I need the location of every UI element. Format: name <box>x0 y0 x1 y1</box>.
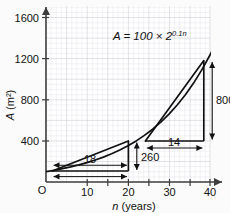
x-tick-label-20: 20 <box>122 186 134 198</box>
y-tick-label-1600: 1600 <box>15 12 39 24</box>
x-tick-label-40: 40 <box>204 186 216 198</box>
rise-800-label: 800 <box>216 94 230 106</box>
run-18-label: 18 <box>84 153 96 165</box>
exponential-growth-chart: 400 800 1200 1600 10 20 30 40 O n (years… <box>0 0 230 213</box>
y-axis-title: A (m²) <box>4 90 16 122</box>
origin-label: O <box>38 184 47 196</box>
y-tick-label-400: 400 <box>21 135 39 147</box>
chart-svg: 400 800 1200 1600 10 20 30 40 O n (years… <box>0 0 230 213</box>
x-tick-label-30: 30 <box>163 186 175 198</box>
x-tick-label-10: 10 <box>81 186 93 198</box>
equation-label-exponent: 0.1n <box>172 29 187 38</box>
y-tick-label-800: 800 <box>21 94 39 106</box>
y-tick-label-1200: 1200 <box>15 53 39 65</box>
y-axis-title-unit: (m²) <box>4 90 16 113</box>
run-14-label: 14 <box>168 136 180 148</box>
x-axis-title-unit: (years) <box>118 200 155 212</box>
equation-label-main: A = 100 × 2 <box>112 30 173 42</box>
x-axis-title: n (years) <box>112 200 155 212</box>
rise-260-label: 260 <box>141 151 159 163</box>
y-axis-title-variable: A <box>4 113 16 121</box>
